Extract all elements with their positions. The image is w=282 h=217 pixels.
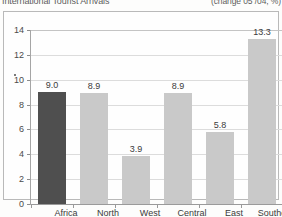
y-tick-label: 2 [19,174,24,184]
bar-value-label: 8.9 [172,81,185,91]
chart-frame: 02468101214 9.08.93.98.95.813.3 AfricaNo… [3,11,279,200]
bar[interactable] [38,92,66,204]
x-tick-mark [31,204,32,208]
y-tick-label: 8 [19,100,24,110]
y-tick-label: 0 [19,199,24,209]
bar-group: 8.9 [80,30,108,204]
bar-group: 3.9 [122,30,150,204]
bar-group: 5.8 [206,30,234,204]
bar-group: 9.0 [38,30,66,204]
bar-group: 13.3 [248,30,276,204]
bar-value-label: 8.9 [88,81,101,91]
y-tick-label: 6 [19,124,24,134]
x-tick-mark [115,204,116,208]
plot-area: 9.08.93.98.95.813.3 [31,30,282,204]
y-tick-label: 10 [14,75,24,85]
chart-title: International Tourist Arrivals [2,0,109,6]
x-axis-labels: AfricaNorthWestCentralEastSouthern [31,208,282,217]
bar-value-label: 13.3 [253,27,271,37]
x-tick-mark [157,204,158,208]
bar[interactable] [80,93,108,204]
scan-artifact-dot [14,74,16,76]
bar-value-label: 9.0 [46,80,59,90]
x-tick-mark [73,204,74,208]
bar-series: 9.08.93.98.95.813.3 [31,30,282,204]
x-tick-label: Southern [249,208,282,217]
y-tick-label: 12 [14,50,24,60]
bar[interactable] [206,132,234,204]
x-tick-mark [241,204,242,208]
bar[interactable] [164,93,192,204]
y-tick-label: 14 [14,25,24,35]
bar-value-label: 3.9 [130,144,143,154]
y-axis: 02468101214 [4,30,31,204]
y-tick-label: 4 [19,149,24,159]
chart-header: International Tourist Arrivals (change 0… [0,0,282,11]
bar-group: 8.9 [164,30,192,204]
bar-value-label: 5.8 [214,120,227,130]
bar[interactable] [248,39,276,204]
bar[interactable] [122,156,150,204]
chart-subtitle: (change 05 /04, %) [211,0,281,6]
x-tick-mark [199,204,200,208]
